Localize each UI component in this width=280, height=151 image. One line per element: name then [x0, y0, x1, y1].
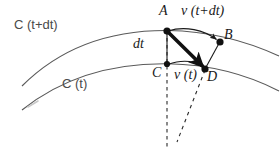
point-b-dot — [216, 38, 223, 45]
label-point-d: D — [207, 70, 217, 84]
label-curve-c-t-plus-dt: C (t+dt) — [14, 18, 58, 31]
point-a-dot — [163, 27, 170, 34]
curve-c-t — [22, 64, 279, 110]
label-vector-v-t: ν (t) — [174, 68, 197, 82]
curve-c-t-plus-dt — [22, 30, 279, 86]
label-vector-v-t-plus-dt: ν (t+dt) — [181, 4, 224, 18]
segment-d-to-b — [205, 43, 220, 70]
label-point-a: A — [159, 4, 168, 18]
point-c-dot — [164, 61, 170, 67]
label-curve-c-t: C (t) — [62, 77, 87, 90]
label-point-c: C — [152, 66, 161, 80]
label-dt: dt — [133, 37, 144, 51]
label-point-b: B — [224, 28, 233, 42]
